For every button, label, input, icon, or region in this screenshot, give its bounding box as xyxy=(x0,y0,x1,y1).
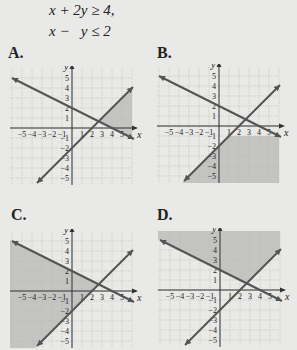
x-tick-label: 2 xyxy=(237,128,241,137)
inequality-2: x − y ≤ 2 xyxy=(49,23,111,40)
x-axis-label: x xyxy=(284,291,290,302)
y-axis-label: y xyxy=(63,66,69,72)
y-tick-label: 4 xyxy=(212,82,216,91)
y-axis-arrow-icon xyxy=(218,228,223,231)
option-a-label[interactable]: A. xyxy=(8,44,24,62)
x-tick-label: −3 xyxy=(38,130,47,139)
graph-a[interactable]: xy−5−4−3−2−11234554321−1−2−3−4−5 xyxy=(10,66,142,188)
x-tick-label: −4 xyxy=(175,128,184,137)
y-tick-label: 1 xyxy=(65,114,69,123)
y-tick-label: 1 xyxy=(213,276,217,285)
y-tick-label: −1 xyxy=(60,297,69,306)
x-tick-label: 3 xyxy=(100,130,104,139)
y-tick-label: 3 xyxy=(65,94,69,103)
x-tick-label: 2 xyxy=(90,130,94,139)
x-tick-label: 3 xyxy=(247,128,251,137)
x-tick-label: −2 xyxy=(48,293,57,302)
x-tick-label: −2 xyxy=(196,292,205,301)
x-tick-label: −3 xyxy=(38,293,47,302)
x-tick-label: 4 xyxy=(110,130,114,139)
x-tick-label: −2 xyxy=(48,130,57,139)
y-tick-label: −5 xyxy=(60,337,69,346)
x-axis-label: x xyxy=(283,127,289,138)
x-tick-label: −5 xyxy=(18,293,27,302)
graph-b[interactable]: xy−5−4−3−2−11234554321−1−2−3−4−5 xyxy=(157,64,289,186)
y-tick-label: 3 xyxy=(213,256,217,265)
x-tick-label: 3 xyxy=(100,293,104,302)
y-tick-label: 5 xyxy=(65,74,69,83)
x-tick-label: −4 xyxy=(176,292,185,301)
y-axis-label: y xyxy=(211,228,217,234)
y-tick-label: −4 xyxy=(60,164,69,173)
graph-d[interactable]: xy−5−4−3−2−11234554321−1−2−3−4−5 xyxy=(158,228,290,350)
y-tick-label: 1 xyxy=(65,277,69,286)
x-tick-label: 4 xyxy=(258,292,262,301)
x-tick-label: −5 xyxy=(18,130,27,139)
inequality-1: x + 2y ≥ 4, xyxy=(49,2,114,19)
x-tick-label: 3 xyxy=(248,292,252,301)
y-tick-label: −4 xyxy=(60,327,69,336)
y-axis-label: y xyxy=(210,64,216,70)
y-axis-arrow-icon xyxy=(70,229,75,232)
y-axis-arrow-icon xyxy=(70,66,75,69)
x-tick-label: −5 xyxy=(165,128,174,137)
y-tick-label: −5 xyxy=(207,172,216,181)
x-tick-label: −5 xyxy=(166,292,175,301)
y-tick-label: 4 xyxy=(65,84,69,93)
y-tick-label: −5 xyxy=(208,336,217,345)
y-tick-label: −4 xyxy=(207,162,216,171)
y-tick-label: −5 xyxy=(60,174,69,183)
y-tick-label: 3 xyxy=(212,92,216,101)
y-axis-label: y xyxy=(63,229,69,235)
y-tick-label: 5 xyxy=(213,236,217,245)
x-axis-label: x xyxy=(136,292,142,303)
option-b-label[interactable]: B. xyxy=(157,44,172,62)
y-tick-label: −1 xyxy=(60,134,69,143)
y-tick-label: 3 xyxy=(65,257,69,266)
y-tick-label: 1 xyxy=(212,112,216,121)
y-tick-label: −1 xyxy=(207,132,216,141)
option-d-label[interactable]: D. xyxy=(157,206,173,224)
x-tick-label: −4 xyxy=(28,130,37,139)
x-tick-label: 2 xyxy=(90,293,94,302)
option-c-label[interactable]: C. xyxy=(11,206,27,224)
shaded-region xyxy=(182,136,279,183)
shaded-region xyxy=(158,231,280,283)
y-tick-label: −1 xyxy=(208,296,217,305)
y-tick-label: 4 xyxy=(213,246,217,255)
x-tick-label: 4 xyxy=(257,128,261,137)
x-axis-label: x xyxy=(136,129,142,140)
x-tick-label: −3 xyxy=(185,128,194,137)
y-tick-label: −4 xyxy=(208,326,217,335)
x-tick-label: 4 xyxy=(110,293,114,302)
graph-c[interactable]: xy−5−4−3−2−11234554321−1−2−3−4−5 xyxy=(10,229,142,350)
x-tick-label: 2 xyxy=(238,292,242,301)
x-tick-label: −3 xyxy=(186,292,195,301)
y-tick-label: 5 xyxy=(212,72,216,81)
y-axis-arrow-icon xyxy=(217,64,222,67)
x-tick-label: −2 xyxy=(195,128,204,137)
x-tick-label: −4 xyxy=(28,293,37,302)
y-tick-label: 5 xyxy=(65,237,69,246)
y-tick-label: 4 xyxy=(65,247,69,256)
